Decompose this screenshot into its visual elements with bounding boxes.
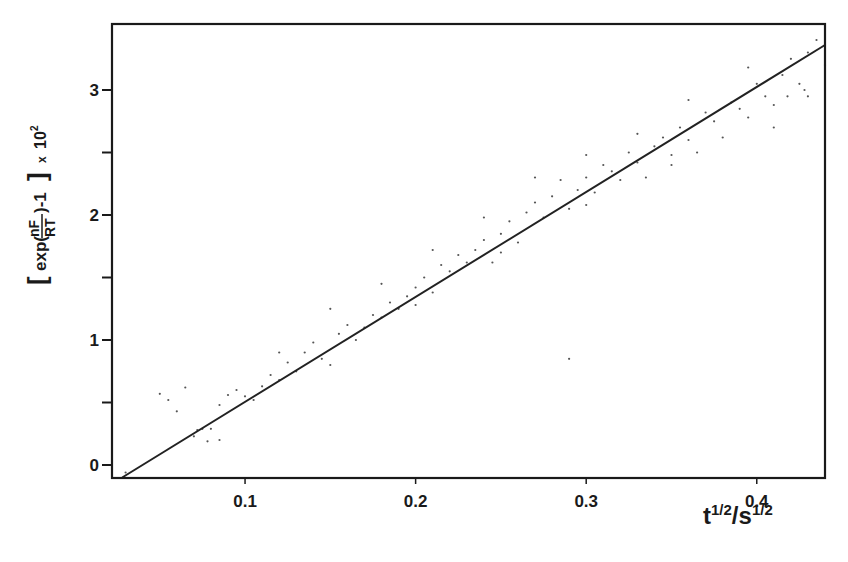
data-point xyxy=(432,291,434,293)
data-point xyxy=(389,301,391,303)
data-point xyxy=(560,179,562,181)
data-point xyxy=(568,358,570,360)
data-point xyxy=(517,241,519,243)
x-axis-title: t1/2/s1/2 xyxy=(703,501,773,529)
data-point xyxy=(329,364,331,366)
data-point xyxy=(611,170,613,172)
data-point xyxy=(449,270,451,272)
data-point xyxy=(747,116,749,118)
data-point xyxy=(218,404,220,406)
data-point xyxy=(670,164,672,166)
data-point xyxy=(483,239,485,241)
data-point xyxy=(619,179,621,181)
data-point xyxy=(253,399,255,401)
data-point xyxy=(713,120,715,122)
svg-text:nF: nF xyxy=(26,219,42,237)
fit-line xyxy=(122,45,825,478)
data-point xyxy=(206,440,208,442)
svg-text:x: x xyxy=(35,156,49,163)
data-point xyxy=(466,261,468,263)
data-point xyxy=(662,136,664,138)
data-point xyxy=(500,233,502,235)
data-point xyxy=(815,39,817,41)
data-point xyxy=(500,251,502,253)
y-tick-label: 0 xyxy=(90,456,99,475)
data-point xyxy=(423,276,425,278)
data-point xyxy=(432,249,434,251)
data-point xyxy=(372,314,374,316)
svg-text:[: [ xyxy=(22,276,52,285)
data-point xyxy=(807,51,809,53)
data-point xyxy=(534,176,536,178)
data-point xyxy=(346,324,348,326)
data-point xyxy=(687,139,689,141)
data-point xyxy=(773,126,775,128)
data-point xyxy=(312,341,314,343)
y-axis: 0123 xyxy=(90,81,112,475)
data-point xyxy=(321,358,323,360)
data-point xyxy=(696,151,698,153)
y-tick-label: 1 xyxy=(90,331,99,350)
data-point xyxy=(508,220,510,222)
data-point xyxy=(355,339,357,341)
data-point xyxy=(722,136,724,138)
data-point xyxy=(739,108,741,110)
data-point xyxy=(764,95,766,97)
data-point xyxy=(474,249,476,251)
data-point xyxy=(338,333,340,335)
data-point xyxy=(176,410,178,412)
data-point xyxy=(585,154,587,156)
data-point xyxy=(218,439,220,441)
data-point xyxy=(670,154,672,156)
svg-text:2: 2 xyxy=(29,125,40,131)
data-point xyxy=(577,189,579,191)
plot-frame xyxy=(112,24,825,478)
data-point xyxy=(440,264,442,266)
svg-text:RT: RT xyxy=(42,218,58,237)
data-point xyxy=(167,399,169,401)
data-point xyxy=(235,389,237,391)
data-point xyxy=(687,99,689,101)
data-point xyxy=(159,393,161,395)
data-points xyxy=(125,39,827,474)
data-point xyxy=(193,435,195,437)
data-point xyxy=(798,83,800,85)
data-point xyxy=(786,95,788,97)
y-tick-label: 2 xyxy=(90,206,99,225)
data-point xyxy=(551,195,553,197)
data-point xyxy=(602,164,604,166)
y-axis-title: [ exp( nF RT )-1 ] x 10 2 xyxy=(22,125,58,285)
data-point xyxy=(773,104,775,106)
data-point xyxy=(781,74,783,76)
x-axis: 0.10.20.30.4 xyxy=(233,478,769,511)
data-point xyxy=(679,126,681,128)
data-point xyxy=(534,201,536,203)
data-point xyxy=(415,304,417,306)
data-point xyxy=(790,58,792,60)
data-point xyxy=(329,308,331,310)
data-point xyxy=(756,83,758,85)
data-point xyxy=(594,191,596,193)
data-point xyxy=(636,133,638,135)
data-point xyxy=(406,295,408,297)
x-tick-label: 0.2 xyxy=(404,492,428,511)
data-point xyxy=(244,395,246,397)
svg-text:10: 10 xyxy=(32,131,49,149)
data-point xyxy=(525,211,527,213)
data-point xyxy=(483,216,485,218)
data-point xyxy=(645,176,647,178)
data-point xyxy=(803,89,805,91)
data-point xyxy=(287,361,289,363)
data-point xyxy=(210,428,212,430)
data-point xyxy=(807,95,809,97)
data-point xyxy=(278,351,280,353)
data-point xyxy=(184,386,186,388)
data-point xyxy=(653,145,655,147)
data-point xyxy=(568,208,570,210)
data-point xyxy=(585,176,587,178)
data-point xyxy=(270,374,272,376)
data-point xyxy=(491,261,493,263)
data-point xyxy=(125,471,127,473)
data-point xyxy=(457,254,459,256)
x-tick-label: 0.1 xyxy=(233,492,257,511)
